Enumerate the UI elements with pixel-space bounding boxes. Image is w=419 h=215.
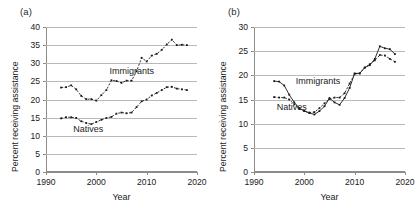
data-point: [151, 55, 153, 57]
x-tick-label-b-1990: 1990: [244, 177, 263, 187]
data-point: [141, 100, 143, 102]
x-axis-label-a: Year: [46, 192, 197, 202]
data-point: [319, 107, 321, 109]
data-point: [166, 86, 168, 88]
series-layer-b: [254, 27, 405, 172]
data-point: [131, 80, 133, 82]
data-point: [394, 53, 396, 55]
data-point: [314, 114, 316, 116]
data-point: [384, 47, 386, 49]
y-axis-label-b: Percent receiving assistance: [218, 61, 228, 172]
data-point: [156, 92, 158, 94]
data-point: [273, 96, 275, 98]
data-point: [85, 98, 87, 100]
data-point: [334, 97, 336, 99]
data-point: [100, 94, 102, 96]
data-point: [344, 97, 346, 99]
data-point: [151, 95, 153, 97]
data-point: [176, 44, 178, 46]
data-point: [181, 88, 183, 90]
data-point: [374, 59, 376, 61]
x-tick-label-a-2000: 2000: [87, 177, 106, 187]
data-point: [369, 63, 371, 65]
data-point: [314, 111, 316, 113]
x-tick-mark-b-2000: [304, 172, 305, 175]
series-markers-a-natives: [60, 86, 188, 125]
series-annotation-a-immigrants: Immigrants: [109, 66, 154, 76]
y-axis-label-a: Percent receiving assistance: [10, 61, 20, 172]
y-tick-label-a-25: 25: [30, 76, 40, 86]
y-tick-label-a-35: 35: [30, 40, 40, 50]
data-point: [339, 97, 341, 99]
data-point: [141, 57, 143, 59]
data-point: [171, 86, 173, 88]
data-point: [166, 44, 168, 46]
series-line-a-natives: [61, 87, 187, 124]
data-point: [283, 97, 285, 99]
data-point: [273, 80, 275, 82]
gridline-y-b-0: [254, 172, 405, 173]
data-point: [95, 121, 97, 123]
series-annotation-a-natives: Natives: [73, 124, 103, 134]
x-tick-mark-a-1990: [46, 172, 47, 175]
data-point: [116, 113, 118, 115]
figure-root: (a)Percent receiving assistance051015202…: [0, 0, 419, 215]
data-point: [90, 98, 92, 100]
data-point: [131, 112, 133, 114]
data-point: [329, 98, 331, 100]
data-point: [324, 105, 326, 107]
data-point: [111, 116, 113, 118]
data-point: [359, 73, 361, 75]
y-tick-label-b-20: 20: [238, 70, 248, 80]
data-point: [106, 117, 108, 119]
chart-panel-a: (a)Percent receiving assistance051015202…: [0, 0, 209, 215]
panel-label-a: (a): [20, 6, 32, 17]
x-tick-label-b-2000: 2000: [295, 177, 314, 187]
y-tick-label-a-5: 5: [35, 149, 40, 159]
data-point: [349, 83, 351, 85]
data-point: [278, 81, 280, 83]
data-point: [171, 39, 173, 41]
y-tick-label-a-20: 20: [30, 95, 40, 105]
data-point: [111, 79, 113, 81]
x-tick-mark-a-2000: [96, 172, 97, 175]
y-tick-label-b-15: 15: [238, 95, 248, 105]
data-point: [308, 112, 310, 114]
data-point: [146, 99, 148, 101]
data-point: [126, 80, 128, 82]
data-point: [116, 80, 118, 82]
gridline-y-a-0: [46, 172, 197, 173]
y-tick-label-b-5: 5: [243, 143, 248, 153]
x-tick-mark-a-2010: [147, 172, 148, 175]
data-point: [334, 102, 336, 104]
x-tick-label-b-2010: 2010: [345, 177, 364, 187]
data-point: [136, 106, 138, 108]
x-tick-label-a-2010: 2010: [137, 177, 156, 187]
data-point: [394, 61, 396, 63]
data-point: [278, 97, 280, 99]
data-point: [344, 92, 346, 94]
data-point: [156, 53, 158, 55]
data-point: [288, 99, 290, 101]
x-axis-line-a: [46, 171, 197, 172]
panel-label-b: (b): [228, 6, 240, 17]
plot-area-b: 0510152025301990200020102020ImmigrantsNa…: [254, 27, 405, 172]
data-point: [80, 120, 82, 122]
data-point: [60, 87, 62, 89]
y-tick-label-a-30: 30: [30, 58, 40, 68]
y-tick-label-b-0: 0: [243, 167, 248, 177]
data-point: [146, 61, 148, 63]
data-point: [75, 117, 77, 119]
data-point: [95, 100, 97, 102]
data-point: [80, 95, 82, 97]
x-tick-label-a-1990: 1990: [36, 177, 55, 187]
series-annotation-b-natives: Natives: [277, 102, 307, 112]
data-point: [288, 94, 290, 96]
data-point: [389, 58, 391, 60]
series-annotation-b-immigrants: Immigrants: [296, 76, 341, 86]
data-point: [65, 86, 67, 88]
data-point: [319, 110, 321, 112]
data-point: [70, 116, 72, 118]
x-axis-line-b: [254, 171, 405, 172]
data-point: [121, 112, 123, 114]
